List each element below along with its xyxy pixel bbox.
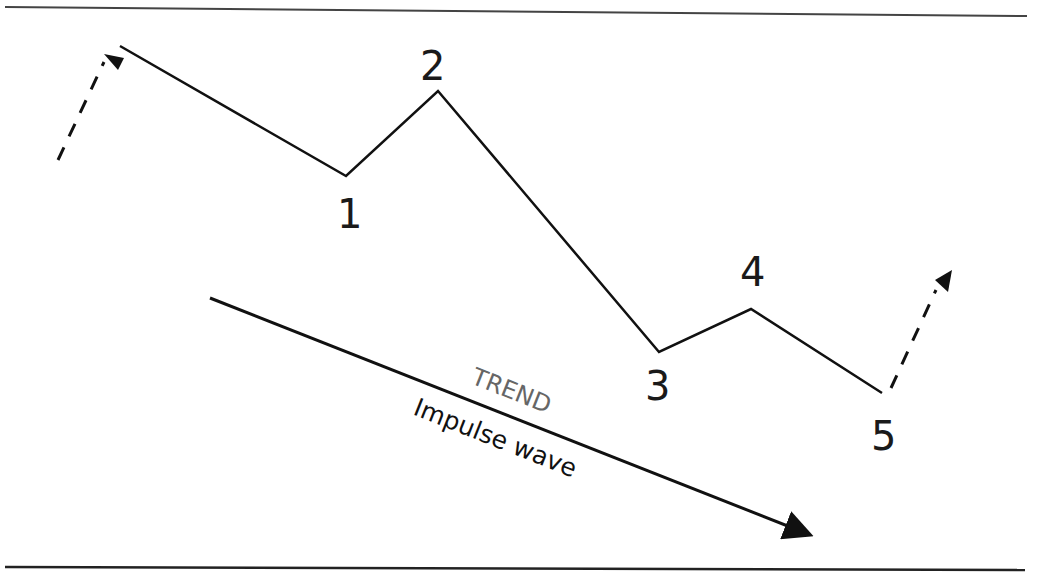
impulse-wave-line	[120, 46, 882, 393]
bottom-divider	[5, 567, 1025, 570]
incoming-dashed-arrow	[58, 54, 124, 160]
outgoing-dashed-arrow	[891, 270, 952, 388]
wave-label-3: 3	[645, 363, 670, 409]
wave-label-2: 2	[420, 43, 445, 89]
impulse-wave-label: Impulse wave	[410, 393, 581, 484]
elliott-wave-diagram: 1 2 3 4 5 TREND Impulse wave	[0, 0, 1047, 584]
trend-label: TREND	[467, 362, 555, 419]
top-divider	[5, 7, 1027, 16]
wave-label-4: 4	[740, 249, 765, 295]
wave-label-5: 5	[871, 413, 896, 459]
trend-arrow	[210, 298, 808, 534]
wave-label-1: 1	[337, 191, 362, 237]
